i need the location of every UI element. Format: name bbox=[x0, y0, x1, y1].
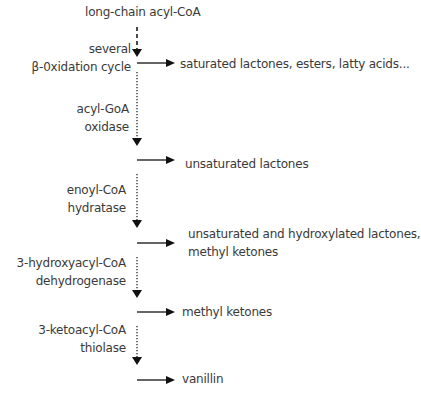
enzyme-1-line2: β-0xidation cycle bbox=[32, 60, 131, 75]
product-4: methyl ketones bbox=[182, 305, 272, 320]
product-1: saturated lactones, esters, latty acids.… bbox=[180, 57, 410, 72]
step-2-vertical-arrow bbox=[132, 72, 142, 146]
step-2-product-arrow bbox=[137, 156, 175, 164]
start-substrate: long-chain acyl-CoA bbox=[85, 5, 200, 20]
step-3-vertical-arrow bbox=[132, 174, 142, 228]
step-5-product-arrow bbox=[137, 376, 175, 384]
enzyme-1-line1: several bbox=[89, 42, 131, 57]
enzyme-5-line2: thiolase bbox=[80, 341, 126, 356]
enzyme-4-line1: 3-hydroxyacyl-CoA bbox=[17, 256, 126, 271]
step-1-product-arrow bbox=[137, 59, 175, 67]
product-3-line2: methyl ketones bbox=[188, 245, 278, 260]
enzyme-3-line2: hydratase bbox=[67, 201, 126, 216]
enzyme-5-line1: 3-ketoacyl-CoA bbox=[38, 323, 126, 338]
product-3-line1: unsaturated and hydroxylated lactones, bbox=[188, 227, 421, 242]
step-3-product-arrow bbox=[137, 239, 175, 247]
product-5: vanillin bbox=[182, 372, 223, 387]
enzyme-3-line1: enoyl-CoA bbox=[67, 183, 126, 198]
step-5-vertical-arrow bbox=[132, 326, 142, 365]
enzyme-4-line2: dehydrogenase bbox=[36, 274, 126, 289]
enzyme-2-line1: acyl-GoA bbox=[77, 102, 129, 117]
step-4-vertical-arrow bbox=[132, 257, 142, 298]
step-1-vertical-arrow bbox=[132, 27, 142, 57]
enzyme-2-line2: oxidase bbox=[84, 120, 129, 135]
step-4-product-arrow bbox=[137, 308, 175, 316]
product-2: unsaturated lactones bbox=[185, 157, 309, 172]
